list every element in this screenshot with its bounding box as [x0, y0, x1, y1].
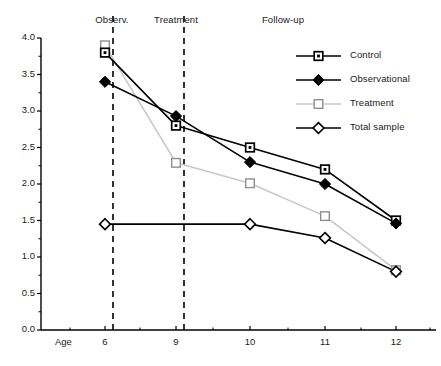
legend-label-observational: Observational: [350, 73, 410, 84]
marker-center-dot: [324, 168, 327, 171]
data-point-control-age-11: [321, 165, 330, 174]
data-point-treatment-age-10: [246, 179, 255, 188]
x-tick-label-12: 12: [376, 336, 416, 347]
x-axis-name: Age: [55, 336, 72, 347]
x-tick-label-9: 9: [156, 336, 196, 347]
data-point-observational-age-11: [319, 178, 330, 189]
marker-diamond-open: [100, 219, 111, 230]
marker-center-dot: [104, 51, 107, 54]
treatment-period-label: Treatment: [116, 14, 236, 25]
marker-diamond-open: [313, 123, 324, 134]
y-tick-label-3.5: 3.5: [2, 68, 35, 79]
data-point-observational-age-10: [244, 157, 255, 168]
data-point-total-sample-age-10: [245, 219, 256, 230]
marker-square-open: [321, 212, 330, 221]
legend-marker-observational: [313, 74, 324, 85]
marker-center-dot: [249, 146, 252, 149]
legend-label-treatment: Treatment: [350, 97, 394, 108]
marker-square-open: [246, 179, 255, 188]
data-point-control-age-10: [246, 143, 255, 152]
legend-marker-total-sample: [313, 123, 324, 134]
data-point-control-age-9: [172, 121, 181, 130]
data-point-observational-age-9: [170, 111, 181, 122]
y-tick-label-1.5: 1.5: [2, 214, 35, 225]
y-tick-label-0.0: 0.0: [2, 323, 35, 334]
marker-diamond-filled: [319, 178, 330, 189]
legend-marker-control: [314, 52, 323, 61]
figure-panel: Observ.TreatmentFollow-up0.00.51.01.52.0…: [0, 0, 441, 366]
data-point-treatment-age-9: [172, 159, 181, 168]
legend-label-control: Control: [350, 49, 381, 60]
marker-diamond-open: [320, 233, 331, 244]
legend-marker-treatment: [314, 100, 323, 109]
marker-diamond-filled: [313, 74, 324, 85]
data-point-total-sample-age-11: [320, 233, 331, 244]
data-point-total-sample-age-6: [100, 219, 111, 230]
x-tick-label-6: 6: [85, 336, 125, 347]
x-tick-label-11: 11: [305, 336, 345, 347]
y-tick-label-1.0: 1.0: [2, 250, 35, 261]
marker-center-dot: [317, 55, 320, 58]
legend-label-total-sample: Total sample: [350, 121, 405, 132]
data-point-observational-age-6: [99, 76, 110, 87]
data-point-treatment-age-11: [321, 212, 330, 221]
marker-diamond-filled: [244, 157, 255, 168]
marker-square-open: [314, 100, 323, 109]
marker-diamond-filled: [170, 111, 181, 122]
data-point-control-age-6: [101, 48, 110, 57]
y-tick-label-3.0: 3.0: [2, 104, 35, 115]
marker-square-open: [172, 159, 181, 168]
y-tick-label-0.5: 0.5: [2, 287, 35, 298]
y-tick-label-2.5: 2.5: [2, 141, 35, 152]
marker-diamond-filled: [99, 76, 110, 87]
y-tick-label-4.0: 4.0: [2, 31, 35, 42]
y-tick-label-2.0: 2.0: [2, 177, 35, 188]
marker-diamond-open: [245, 219, 256, 230]
series-line-total-sample: [105, 224, 396, 271]
x-tick-label-10: 10: [230, 336, 270, 347]
figure-caption: [26, 355, 436, 366]
marker-center-dot: [175, 124, 178, 127]
followup-period-label: Follow-up: [223, 14, 343, 25]
